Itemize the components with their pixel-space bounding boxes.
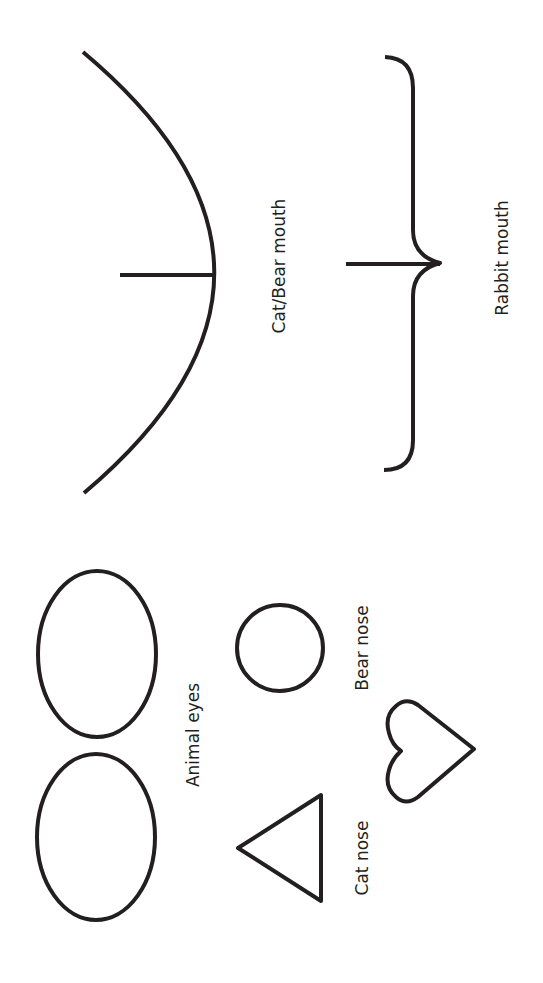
- cat-bear-mouth-arc: [83, 52, 214, 493]
- bear-nose-label: Bear nose: [352, 605, 372, 690]
- bear-nose-circle: [237, 605, 323, 691]
- cat-bear-mouth-label: Cat/Bear mouth: [269, 199, 289, 334]
- rabbit-mouth-label: Rabbit mouth: [492, 200, 512, 315]
- eye-oval-top: [38, 571, 156, 737]
- rabbit-mouth: [346, 57, 440, 470]
- craft-template-canvas: [0, 0, 543, 983]
- animal-eyes: [37, 571, 156, 920]
- eye-oval-bottom: [37, 754, 155, 920]
- cat-bear-mouth: [83, 52, 214, 493]
- animal-eyes-label: Animal eyes: [183, 683, 203, 787]
- cat-nose-label: Cat nose: [352, 821, 372, 896]
- cat-nose-triangle: [238, 795, 321, 901]
- heart-nose: [388, 701, 474, 801]
